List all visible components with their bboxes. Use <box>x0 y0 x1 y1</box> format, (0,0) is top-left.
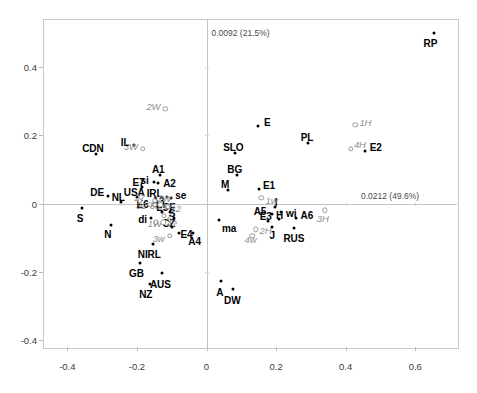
x-tick-label: 0.4 <box>339 361 352 372</box>
country-point-marker <box>219 280 222 283</box>
country-point-marker <box>152 181 155 184</box>
y-axis-line <box>207 19 208 347</box>
y-tick-label: 0.2 <box>5 130 37 141</box>
category-point-label: 3H <box>317 213 329 224</box>
category-point-label: 12 <box>171 203 181 214</box>
y-tick-mark <box>39 67 43 68</box>
country-point-label: NL <box>112 192 125 203</box>
x-tick-mark <box>137 347 138 351</box>
x-axis-title: 0.0212 (49.6%) <box>361 191 419 201</box>
country-point-marker <box>257 124 260 127</box>
country-point-label: BG <box>227 164 242 175</box>
x-tick-mark <box>67 347 68 351</box>
x-tick-label: 0.6 <box>409 361 422 372</box>
country-point-marker <box>258 188 261 191</box>
country-point-label: H <box>276 210 283 221</box>
category-point-label: 3w <box>153 233 165 244</box>
country-point-marker <box>191 231 194 234</box>
category-point-label: 4H <box>354 139 366 150</box>
x-tick-mark <box>346 347 347 351</box>
country-point-label: NZ <box>139 289 152 300</box>
country-point-label: AUS <box>150 279 171 290</box>
country-point-label: A4 <box>188 236 201 247</box>
x-axis-inner-tick <box>415 202 416 206</box>
country-point-label: RUS <box>283 233 304 244</box>
category-point-label: 4w <box>244 234 256 245</box>
y-axis-inner-tick <box>205 135 209 136</box>
x-tick-label: 0.2 <box>269 361 282 372</box>
country-point-marker <box>148 282 151 285</box>
country-point-label: N <box>104 229 111 240</box>
country-point-label: E1 <box>263 180 275 191</box>
country-point-marker <box>294 216 297 219</box>
x-tick-label: -0.4 <box>59 361 75 372</box>
category-point-label: 1w <box>265 195 277 206</box>
scatter-plot-figure: -0.4-0.200.20.40.60.40.20-0.2-0.4 RPEPLE… <box>0 0 477 393</box>
category-point-label: 2W <box>146 101 160 112</box>
y-axis-inner-tick <box>205 67 209 68</box>
y-axis-title: 0.0092 (21.5%) <box>212 28 270 38</box>
country-point-marker <box>218 218 221 221</box>
country-point-label: E3 <box>260 211 272 222</box>
category-point-label: 1H <box>359 117 371 128</box>
x-tick-mark <box>415 347 416 351</box>
country-point-label: RP <box>424 38 438 49</box>
country-point-label: S <box>77 213 84 224</box>
plot-frame <box>43 19 459 349</box>
y-tick-mark <box>39 204 43 205</box>
country-point-label: DW <box>224 295 240 306</box>
x-tick-mark <box>207 347 208 351</box>
country-point-label: se <box>175 190 186 201</box>
country-point-label: di <box>138 214 147 225</box>
country-point-marker <box>107 194 110 197</box>
country-point-marker <box>139 262 142 265</box>
country-point-label: ma <box>222 223 236 234</box>
y-tick-mark <box>39 340 43 341</box>
category-point-label: 4? <box>166 218 176 229</box>
x-axis-line <box>43 204 457 205</box>
country-point-label: A2 <box>163 178 176 189</box>
country-point-label: E2 <box>370 142 382 153</box>
country-point-label: DE <box>90 187 104 198</box>
category-point-label: 1W <box>148 218 162 229</box>
country-point-marker <box>161 271 164 274</box>
country-point-marker <box>109 223 112 226</box>
country-point-marker <box>80 206 83 209</box>
country-point-marker <box>292 227 295 230</box>
y-tick-mark <box>39 135 43 136</box>
country-point-label: SLO <box>223 142 243 153</box>
y-tick-label: -0.2 <box>5 266 37 277</box>
country-point-label: CDN <box>82 143 103 154</box>
country-point-label: PL <box>301 132 314 143</box>
category-point-label: 3W <box>124 141 138 152</box>
x-tick-label: -0.2 <box>129 361 145 372</box>
country-point-label: NIRL <box>138 249 161 260</box>
country-point-label: M <box>221 179 229 190</box>
x-tick-label: 0 <box>204 361 209 372</box>
country-point-label: A <box>216 287 223 298</box>
country-point-label: A1 <box>152 164 165 175</box>
category-point-label: 32 <box>136 200 146 211</box>
country-point-marker <box>157 182 160 185</box>
country-point-marker <box>363 150 366 153</box>
country-point-marker <box>433 31 436 34</box>
category-point-label: 2H <box>260 225 272 236</box>
x-tick-mark <box>276 347 277 351</box>
country-point-label: A6 <box>301 210 314 221</box>
x-axis-inner-tick <box>346 202 347 206</box>
country-point-label: E <box>264 117 271 128</box>
y-tick-label: 0.4 <box>5 61 37 72</box>
y-tick-label: 0 <box>5 198 37 209</box>
y-tick-mark <box>39 272 43 273</box>
y-tick-label: -0.4 <box>5 335 37 346</box>
country-point-marker <box>232 287 235 290</box>
y-axis-inner-tick <box>205 272 209 273</box>
country-point-label: GB <box>129 268 144 279</box>
